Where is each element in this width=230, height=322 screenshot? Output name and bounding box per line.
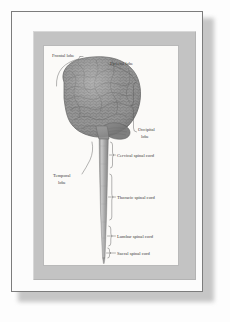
brain-spinal-cord-diagram: Frontal lobe Parietal lobe Occipital lob… xyxy=(44,46,178,265)
label-frontal-lobe: Frontal lobe xyxy=(52,53,74,58)
label-parietal-lobe: Parietal lobe xyxy=(110,61,133,66)
brain-shape xyxy=(63,57,141,140)
label-occipital-lobe-line1: Occipital xyxy=(138,127,156,132)
label-thoracic-spinal-cord: Thoracic spinal cord xyxy=(117,195,155,200)
label-temporal-lobe-line2: lobe xyxy=(58,180,66,185)
label-lumbar-spinal-cord: Lumbar spinal cord xyxy=(117,234,154,239)
spinal-cord-shape xyxy=(99,130,109,264)
illustration-plate: Frontal lobe Parietal lobe Occipital lob… xyxy=(44,46,178,265)
label-sacral-spinal-cord: Sacral spinal cord xyxy=(117,251,151,256)
label-temporal-lobe-line1: Temporal xyxy=(53,173,71,178)
framed-picture-scene: Frontal lobe Parietal lobe Occipital lob… xyxy=(0,0,230,322)
label-cervical-spinal-cord: Cervical spinal cord xyxy=(117,153,155,158)
label-occipital-lobe-line2: lobe xyxy=(141,134,149,139)
